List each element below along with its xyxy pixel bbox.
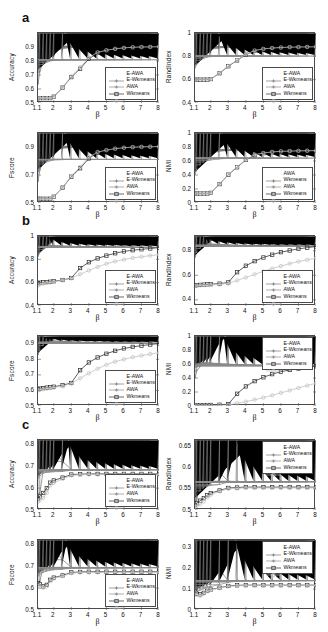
y-axis-label: NMI bbox=[165, 160, 172, 172]
legend-item: E-AWA bbox=[265, 273, 310, 280]
legend-label: E-AWA bbox=[284, 544, 301, 550]
legend-item: Wkmeans bbox=[108, 496, 153, 503]
y-tick-label: 0.6 bbox=[170, 75, 191, 82]
y-tick-label: 0.8 bbox=[13, 440, 34, 447]
y-axis-label: Fscore bbox=[8, 157, 15, 178]
legend-label: Wkmeans bbox=[284, 90, 307, 96]
legend-item: E-Wkmeans bbox=[108, 583, 153, 590]
legend-item: E-Wkmeans bbox=[265, 346, 310, 353]
legend-item: Wkmeans bbox=[108, 292, 153, 299]
legend-item: E-AWA bbox=[108, 273, 153, 280]
legend-marker-icon bbox=[108, 183, 125, 189]
x-tick-label: 6 bbox=[115, 204, 131, 211]
y-tick-label: 0.6 bbox=[170, 360, 191, 367]
legend-marker-icon bbox=[265, 170, 282, 176]
legend-item: AWA bbox=[265, 183, 310, 190]
legend-item: E-AWA bbox=[265, 444, 310, 451]
x-tick-label: 1.1 bbox=[186, 407, 202, 414]
legend-label: E-Wkmeans bbox=[284, 279, 312, 285]
y-tick-label: 0.4 bbox=[170, 374, 191, 381]
legend: E-AWA E-Wkmeans AWA Wkmeans bbox=[262, 67, 313, 100]
legend-item: Wkmeans bbox=[108, 392, 153, 399]
x-tick-label: 7 bbox=[289, 611, 305, 618]
legend-item: E-AWA bbox=[265, 340, 310, 347]
x-tick-label: 1.1 bbox=[29, 307, 45, 314]
legend-item: Wkmeans bbox=[265, 463, 310, 470]
x-tick-label: 1.1 bbox=[186, 104, 202, 111]
x-tick-label: 2 bbox=[45, 611, 61, 618]
legend-marker-icon bbox=[108, 483, 125, 489]
y-axis-label: RandIndex bbox=[165, 50, 172, 83]
x-axis-label: β bbox=[245, 617, 265, 626]
legend-item: E-Wkmeans bbox=[108, 279, 153, 286]
legend-label: AWA bbox=[127, 490, 138, 496]
x-tick-label: 7 bbox=[289, 204, 305, 211]
x-tick-label: 7 bbox=[132, 307, 148, 314]
legend-marker-icon bbox=[108, 386, 125, 392]
y-axis-label: NMI bbox=[165, 363, 172, 375]
y-tick-label: 0.8 bbox=[13, 57, 34, 64]
panel-letter-c: c bbox=[22, 417, 29, 432]
x-tick-label: 2 bbox=[45, 511, 61, 518]
legend-label: AWA bbox=[284, 353, 295, 359]
legend-marker-icon bbox=[265, 564, 282, 570]
legend-label: AWA bbox=[284, 557, 295, 563]
legend-marker-icon bbox=[108, 70, 125, 76]
legend-marker-icon bbox=[108, 477, 125, 483]
x-axis-label: β bbox=[88, 517, 108, 526]
x-tick-label: 2 bbox=[45, 407, 61, 414]
legend-marker-icon bbox=[108, 190, 125, 196]
x-tick-label: 3 bbox=[219, 104, 235, 111]
legend-item: E-Wkmeans bbox=[265, 450, 310, 457]
legend-item: Wkmeans bbox=[265, 563, 310, 570]
legend-item: AWA bbox=[108, 83, 153, 90]
legend-label: E-Wkmeans bbox=[127, 176, 155, 182]
x-tick-label: 8 bbox=[150, 104, 166, 111]
x-tick-label: 2 bbox=[202, 104, 218, 111]
x-tick-label: 3 bbox=[62, 204, 78, 211]
legend: AWA Wkmeans AWA Wkmeans bbox=[262, 167, 313, 200]
x-tick-label: 2 bbox=[202, 611, 218, 618]
legend-label: AWA bbox=[127, 83, 138, 89]
x-tick-label: 8 bbox=[150, 407, 166, 414]
x-tick-label: 1.1 bbox=[29, 511, 45, 518]
legend-label: Wkmeans bbox=[284, 176, 307, 182]
legend-marker-icon bbox=[108, 490, 125, 496]
legend-marker-icon bbox=[265, 346, 282, 352]
legend-label: Wkmeans bbox=[284, 564, 307, 570]
x-tick-label: 1.1 bbox=[29, 204, 45, 211]
legend-label: E-AWA bbox=[284, 340, 301, 346]
x-tick-label: 6 bbox=[115, 307, 131, 314]
x-tick-label: 1.1 bbox=[29, 611, 45, 618]
legend-label: E-Wkmeans bbox=[127, 379, 155, 385]
legend-label: Wkmeans bbox=[127, 293, 150, 299]
legend-marker-icon bbox=[108, 497, 125, 503]
y-tick-label: 0.6 bbox=[13, 386, 34, 393]
legend-label: E-AWA bbox=[127, 170, 144, 176]
legend-marker-icon bbox=[265, 340, 282, 346]
x-tick-label: 3 bbox=[62, 307, 78, 314]
x-tick-label: 2 bbox=[202, 307, 218, 314]
legend-item: E-AWA bbox=[108, 373, 153, 380]
legend-item: Wkmeans bbox=[265, 359, 310, 366]
y-tick-label: 0.9 bbox=[13, 339, 34, 346]
x-tick-label: 1.1 bbox=[186, 611, 202, 618]
y-tick-label: 0.1 bbox=[170, 585, 191, 592]
legend-label: E-AWA bbox=[127, 70, 144, 76]
y-tick-label: 0.9 bbox=[13, 143, 34, 150]
legend-item: AWA bbox=[108, 590, 153, 597]
legend-item: E-Wkmeans bbox=[108, 176, 153, 183]
x-tick-label: 6 bbox=[272, 407, 288, 414]
legend-label: Wkmeans bbox=[127, 190, 150, 196]
legend-marker-icon bbox=[108, 373, 125, 379]
x-tick-label: 3 bbox=[219, 407, 235, 414]
x-tick-label: 8 bbox=[150, 204, 166, 211]
legend-marker-icon bbox=[108, 379, 125, 385]
legend-marker-icon bbox=[108, 293, 125, 299]
legend-label: E-AWA bbox=[127, 477, 144, 483]
legend-marker-icon bbox=[265, 450, 282, 456]
x-tick-label: 8 bbox=[150, 511, 166, 518]
legend-item: E-AWA bbox=[108, 477, 153, 484]
legend-label: Wkmeans bbox=[127, 393, 150, 399]
legend-marker-icon bbox=[108, 286, 125, 292]
